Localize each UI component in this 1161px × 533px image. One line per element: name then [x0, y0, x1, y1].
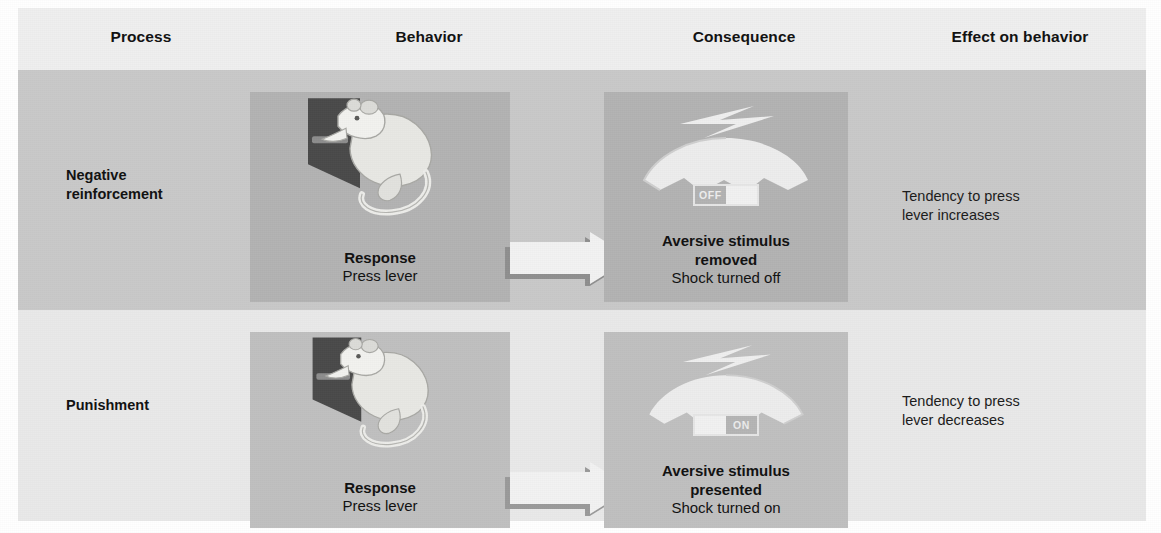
column-header-process: Process — [18, 28, 264, 46]
consequence-caption: Aversive stimulus removed Shock turned o… — [604, 232, 848, 288]
consequence-caption-sub: Shock turned off — [604, 269, 848, 288]
effect-text-line1: Tendency to press — [902, 393, 1020, 409]
shock-generator-icon — [604, 334, 848, 456]
column-header-behavior: Behavior — [264, 28, 594, 46]
behavior-caption-title: Response — [250, 479, 510, 498]
table-row: Negative reinforcement — [18, 70, 1146, 310]
behavior-caption-title: Response — [250, 249, 510, 268]
rat-pressing-lever-icon — [250, 332, 510, 457]
consequence-caption-sub: Shock turned on — [604, 499, 848, 518]
table-row: Punishment Response — [18, 310, 1146, 521]
rat-pressing-lever-icon — [250, 92, 510, 226]
shock-switch-knob — [726, 186, 757, 204]
consequence-caption-title-line2: removed — [604, 251, 848, 270]
column-header-effect: Effect on behavior — [894, 28, 1146, 46]
shock-switch-knob — [695, 416, 726, 434]
shock-switch-label: OFF — [695, 186, 726, 204]
consequence-caption-title-line1: Aversive stimulus — [604, 462, 848, 481]
shock-switch-label: ON — [726, 416, 757, 434]
table-header-row: Process Behavior Consequence Effect on b… — [18, 8, 1146, 70]
column-header-consequence: Consequence — [594, 28, 894, 46]
behavior-panel: Response Press lever — [250, 92, 510, 302]
shock-switch-on[interactable]: ON — [693, 414, 759, 436]
consequence-panel: OFF Aversive stimulus removed Shock turn… — [604, 92, 848, 302]
shock-switch-off[interactable]: OFF — [693, 184, 759, 206]
effect-text: Tendency to press lever decreases — [902, 392, 1142, 430]
behavior-caption-sub: Press lever — [250, 267, 510, 286]
consequence-caption-title-line2: presented — [604, 481, 848, 500]
process-label-punishment: Punishment — [66, 396, 266, 415]
behavior-panel: Response Press lever — [250, 332, 510, 528]
behavior-caption-sub: Press lever — [250, 497, 510, 516]
comparison-table: Process Behavior Consequence Effect on b… — [18, 8, 1146, 521]
behavior-caption: Response Press lever — [250, 479, 510, 517]
figure-root: Process Behavior Consequence Effect on b… — [0, 0, 1161, 533]
process-label-line1: Negative — [66, 167, 126, 183]
effect-text-line2: lever decreases — [902, 412, 1004, 428]
effect-text-line2: lever increases — [902, 207, 1000, 223]
effect-text: Tendency to press lever increases — [902, 187, 1142, 225]
consequence-caption-title-line1: Aversive stimulus — [604, 232, 848, 251]
behavior-caption: Response Press lever — [250, 249, 510, 287]
consequence-panel: ON Aversive stimulus presented Shock tur… — [604, 332, 848, 528]
consequence-caption: Aversive stimulus presented Shock turned… — [604, 462, 848, 518]
process-label-line2: reinforcement — [66, 186, 163, 202]
process-label-negative-reinforcement: Negative reinforcement — [66, 166, 266, 203]
process-label-line1: Punishment — [66, 397, 149, 413]
effect-text-line1: Tendency to press — [902, 188, 1020, 204]
